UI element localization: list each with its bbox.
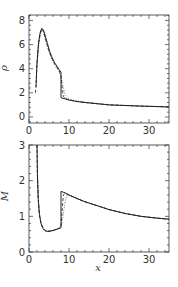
y-axis-label: M: [0, 190, 10, 202]
y-tick-label: 4: [19, 63, 25, 74]
y-tick-label: 0: [19, 111, 25, 122]
series-dashed-line: [37, 145, 169, 231]
y-tick-label: 0: [19, 247, 25, 258]
series-dashed-line: [35, 29, 169, 107]
series-dotted-line: [37, 170, 169, 231]
y-tick-label: 3: [19, 140, 25, 151]
y-tick-label: 1: [19, 211, 25, 222]
x-tick-label: 30: [143, 125, 156, 136]
plot-frame: [29, 145, 169, 252]
x-tick-label: 0: [26, 125, 32, 136]
y-tick-label: 6: [19, 39, 25, 50]
series-dotted-line: [37, 31, 169, 107]
y-tick-label: 2: [19, 175, 25, 186]
density-panel: 010203002468ρ: [0, 15, 169, 136]
x-tick-label: 10: [63, 125, 76, 136]
y-axis-label: ρ: [0, 65, 9, 72]
mach-panel: 01020300123Mx: [0, 140, 169, 274]
x-tick-label: 20: [103, 125, 116, 136]
x-tick-label: 0: [26, 254, 32, 265]
x-tick-label: 10: [63, 254, 76, 265]
x-tick-label: 20: [103, 254, 116, 265]
x-axis-label: x: [95, 262, 101, 273]
y-tick-label: 2: [19, 87, 25, 98]
figure: 010203002468ρ 01020300123Mx: [0, 0, 178, 287]
series-solid-line: [37, 145, 169, 231]
y-tick-label: 8: [19, 15, 25, 26]
x-tick-label: 30: [143, 254, 156, 265]
